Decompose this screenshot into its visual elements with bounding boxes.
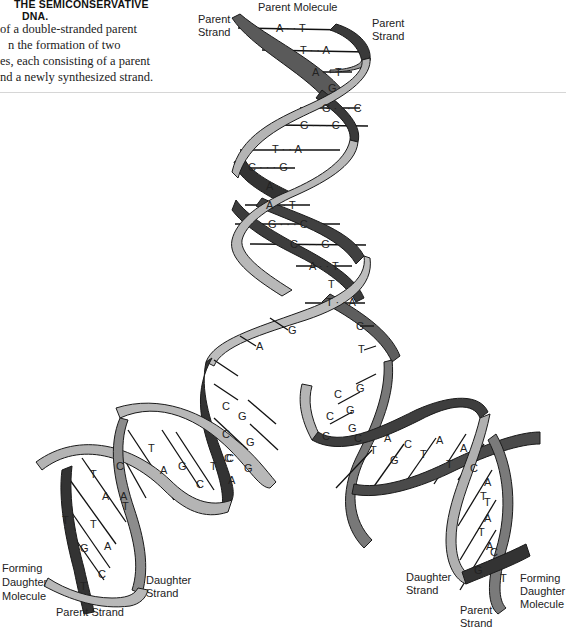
pair-label: T bbox=[328, 278, 335, 290]
label-parent-strand-bl: Parent Strand bbox=[56, 606, 124, 618]
base: A bbox=[104, 540, 112, 552]
label-forming-daughter-right: Molecule bbox=[520, 598, 564, 610]
pair-label: G · · · C bbox=[322, 102, 362, 114]
base: C bbox=[116, 460, 124, 472]
label-parent-strand-br: Strand bbox=[460, 617, 492, 629]
base: T bbox=[148, 442, 155, 454]
base: C bbox=[222, 400, 230, 412]
base: T bbox=[122, 500, 129, 512]
label-daughter-strand-left: Daughter bbox=[146, 574, 192, 586]
base: T bbox=[62, 514, 69, 526]
base: G bbox=[244, 462, 253, 474]
base: G bbox=[390, 454, 399, 466]
base: T bbox=[420, 448, 427, 460]
dna-replication-diagram: A · · T T · · A A · · T G G · · · C G · … bbox=[0, 0, 566, 631]
pair-label: A · · T bbox=[309, 260, 339, 272]
base: T bbox=[480, 490, 487, 502]
label-forming-daughter-left: Daughter bbox=[2, 576, 48, 588]
base: G bbox=[474, 564, 483, 576]
base: C bbox=[470, 462, 478, 474]
base: G bbox=[178, 460, 187, 472]
pair-label: G bbox=[328, 82, 337, 94]
base: G bbox=[238, 410, 247, 422]
label-forming-daughter-left: Forming bbox=[2, 562, 42, 574]
label-parent-strand-br: Parent bbox=[460, 604, 492, 616]
pair-label: A · · T bbox=[266, 199, 296, 211]
base: C bbox=[98, 568, 106, 580]
pair-label: T · · A bbox=[326, 296, 356, 308]
pair-label: A · · T bbox=[276, 22, 306, 34]
base: T bbox=[90, 468, 97, 480]
base: A bbox=[102, 490, 110, 502]
label-daughter-strand-right: Daughter bbox=[406, 571, 452, 583]
label-forming-daughter-right: Forming bbox=[520, 572, 560, 584]
base: A bbox=[160, 464, 168, 476]
base: G bbox=[346, 404, 355, 416]
base: C bbox=[226, 452, 234, 464]
base: A bbox=[384, 432, 392, 444]
fork-base: G bbox=[288, 324, 297, 336]
label-forming-daughter-right: Daughter bbox=[520, 585, 566, 597]
pair-label: G · · · C bbox=[300, 119, 340, 131]
base: T bbox=[80, 580, 87, 592]
base: T bbox=[500, 572, 507, 584]
base: C bbox=[354, 432, 362, 444]
label-forming-daughter-left: Molecule bbox=[2, 590, 46, 602]
base: C bbox=[334, 388, 342, 400]
base: T bbox=[90, 518, 97, 530]
base: A bbox=[228, 474, 236, 486]
base: C bbox=[326, 410, 334, 422]
base: T bbox=[210, 460, 217, 472]
label-parent-strand-tl: Parent bbox=[198, 13, 230, 25]
fork-base: C bbox=[356, 320, 364, 332]
base: C bbox=[322, 430, 330, 442]
base: G bbox=[356, 382, 365, 394]
pair-label: C · · · G bbox=[290, 238, 330, 250]
base: A bbox=[484, 512, 492, 524]
base: T bbox=[478, 526, 485, 538]
base: C bbox=[196, 478, 204, 490]
base: A bbox=[436, 434, 444, 446]
pair-label: C · · · G bbox=[248, 161, 288, 173]
label-parent-strand-tr: Strand bbox=[372, 30, 404, 42]
label-daughter-strand-left: Strand bbox=[146, 587, 178, 599]
base: C bbox=[404, 438, 412, 450]
fork-base: A bbox=[256, 340, 264, 352]
base: C bbox=[490, 546, 498, 558]
parent-helix bbox=[206, 14, 400, 366]
pair-label: T · · A bbox=[272, 143, 302, 155]
base: A bbox=[460, 442, 468, 454]
base: A bbox=[484, 476, 492, 488]
base: G bbox=[80, 542, 89, 554]
pair-label: A bbox=[266, 180, 274, 192]
base: C bbox=[222, 428, 230, 440]
base: T bbox=[446, 458, 453, 470]
label-parent-molecule: Parent Molecule bbox=[258, 1, 338, 13]
pair-label: A · · T bbox=[312, 66, 342, 78]
pair-label: G · · · C bbox=[268, 218, 308, 230]
base: T bbox=[370, 444, 377, 456]
pair-label: T · · A bbox=[300, 44, 330, 56]
label-daughter-strand-right: Strand bbox=[406, 584, 438, 596]
label-parent-strand-tr: Parent bbox=[372, 17, 404, 29]
fork-base: T bbox=[358, 343, 365, 355]
base: G bbox=[246, 436, 255, 448]
label-parent-strand-tl: Strand bbox=[198, 26, 230, 38]
